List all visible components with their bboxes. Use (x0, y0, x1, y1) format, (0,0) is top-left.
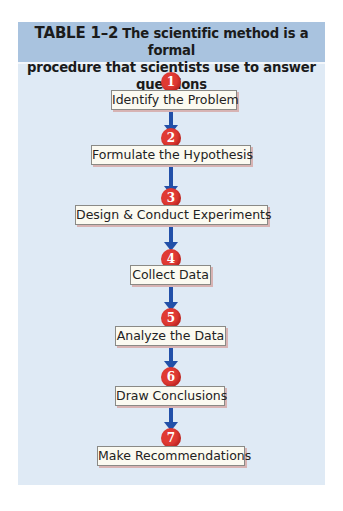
step-box-draw-conclusions: Draw Conclusions (115, 386, 225, 406)
step-box-collect-data: Collect Data (130, 265, 211, 285)
arrow-down-icon (164, 225, 178, 251)
header-line-1: TABLE 1–2The scientific method is a form… (18, 25, 325, 59)
step-box-identify-problem: Identify the Problem (111, 90, 237, 110)
step-box-make-recommendations: Make Recommendations (97, 446, 245, 466)
step-number-badge: 5 (161, 308, 181, 328)
step-number-badge: 6 (161, 367, 181, 387)
table-label: TABLE 1–2 (35, 24, 119, 42)
table-header: TABLE 1–2The scientific method is a form… (18, 22, 325, 64)
step-box-design-experiments: Design & Conduct Experiments (75, 205, 268, 225)
step-number-badge: 7 (161, 428, 181, 448)
step-number-badge: 1 (161, 72, 181, 92)
header-title-part-1: The scientific method is a formal (122, 26, 308, 58)
step-box-analyze-data: Analyze the Data (115, 326, 226, 346)
step-box-formulate-hypothesis: Formulate the Hypothesis (91, 145, 251, 165)
